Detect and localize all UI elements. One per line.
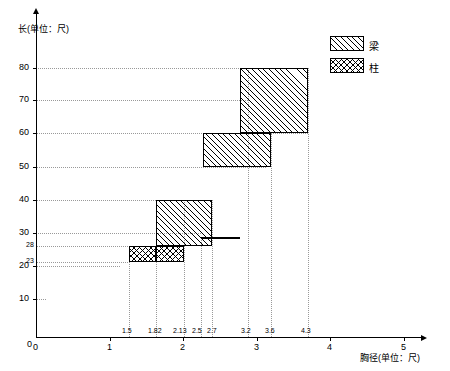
data-box-beam-3 [240, 68, 308, 133]
gridline-y-20 [36, 266, 120, 267]
x-minor-label-4-3: 4.3 [301, 327, 311, 334]
data-box-col-2 [156, 246, 184, 262]
x-minor-label-3-6: 3.6 [265, 327, 275, 334]
gridline-y-80 [36, 68, 271, 69]
x-minor-label-2-5: 2.5 [192, 327, 202, 334]
x-tick-3 [257, 337, 258, 341]
x-tick-label-4: 4 [327, 342, 332, 352]
y-tick-80 [33, 68, 37, 69]
gridline-y-50 [36, 167, 266, 168]
y-tick-20 [33, 266, 37, 267]
x-tick-2 [183, 337, 184, 341]
x-axis-title: 胸径(单位：尺) [360, 351, 420, 364]
y-axis-title: 长(单位：尺) [18, 22, 69, 35]
legend-swatch-column [330, 58, 364, 73]
legend-swatch-beam [330, 36, 364, 51]
y-tick-40 [33, 200, 37, 201]
segment-mark [201, 237, 240, 239]
y-tick-30 [33, 233, 37, 234]
x-minor-label-2-7: 2.7 [207, 327, 217, 334]
x-tick-label-3: 3 [254, 342, 259, 352]
y-tick-label-50: 50 [19, 161, 29, 171]
x-tick-1 [110, 337, 111, 341]
x-axis-arrow [421, 335, 427, 341]
y-tick-60 [33, 133, 37, 134]
y-tick-10 [33, 299, 37, 300]
gridvert-2-7 [212, 200, 213, 337]
y-tick-label-70: 70 [19, 94, 29, 104]
gridvert-2-5 [201, 238, 202, 337]
x-tick-label-0: 0 [33, 342, 38, 352]
legend-label-column: 柱 [369, 60, 379, 75]
y-axis-arrow [33, 8, 39, 14]
x-minor-label-1-5: 1.5 [122, 327, 132, 334]
gridvert-1-5 [129, 249, 130, 337]
y-tick-label-40: 40 [19, 194, 29, 204]
y-axis [36, 14, 37, 337]
gridvert-1-82 [156, 249, 157, 337]
x-tick-label-2: 2 [180, 342, 185, 352]
y-tick-label-80: 80 [19, 62, 29, 72]
y-tick-label-30: 30 [19, 227, 29, 237]
y-tick-label-10: 10 [19, 293, 29, 303]
legend-label-beam: 梁 [369, 38, 379, 53]
x-tick-label-5: 5 [401, 342, 406, 352]
data-box-beam-2 [203, 133, 271, 167]
y-tick-label-60: 60 [19, 127, 29, 137]
chart-root: 长(单位：尺) 胸径(单位：尺) 0 10 20 30 40 50 60 70 … [0, 0, 450, 371]
x-axis [36, 337, 421, 338]
x-tick-4 [330, 337, 331, 341]
x-tick-label-1: 1 [107, 342, 112, 352]
gridvert-3-6 [271, 133, 272, 337]
data-box-beam-1 [156, 200, 212, 246]
x-minor-label-3-2: 3.2 [241, 327, 251, 334]
y-tick-label-0: 0 [27, 339, 32, 349]
y-extra-label-23: 23 [26, 257, 34, 264]
y-extra-label-28: 28 [26, 241, 34, 248]
data-box-col-1 [129, 246, 156, 262]
gridvert-4-3 [308, 68, 309, 337]
y-tick-70 [33, 100, 37, 101]
x-tick-5 [404, 337, 405, 341]
gridline-y-10 [36, 299, 46, 300]
gridline-y-23 [36, 262, 130, 263]
x-minor-label-2-13: 2.13 [173, 327, 187, 334]
y-tick-50 [33, 167, 37, 168]
gridline-y-70 [36, 100, 248, 101]
x-minor-label-1-82: 1.82 [148, 327, 162, 334]
